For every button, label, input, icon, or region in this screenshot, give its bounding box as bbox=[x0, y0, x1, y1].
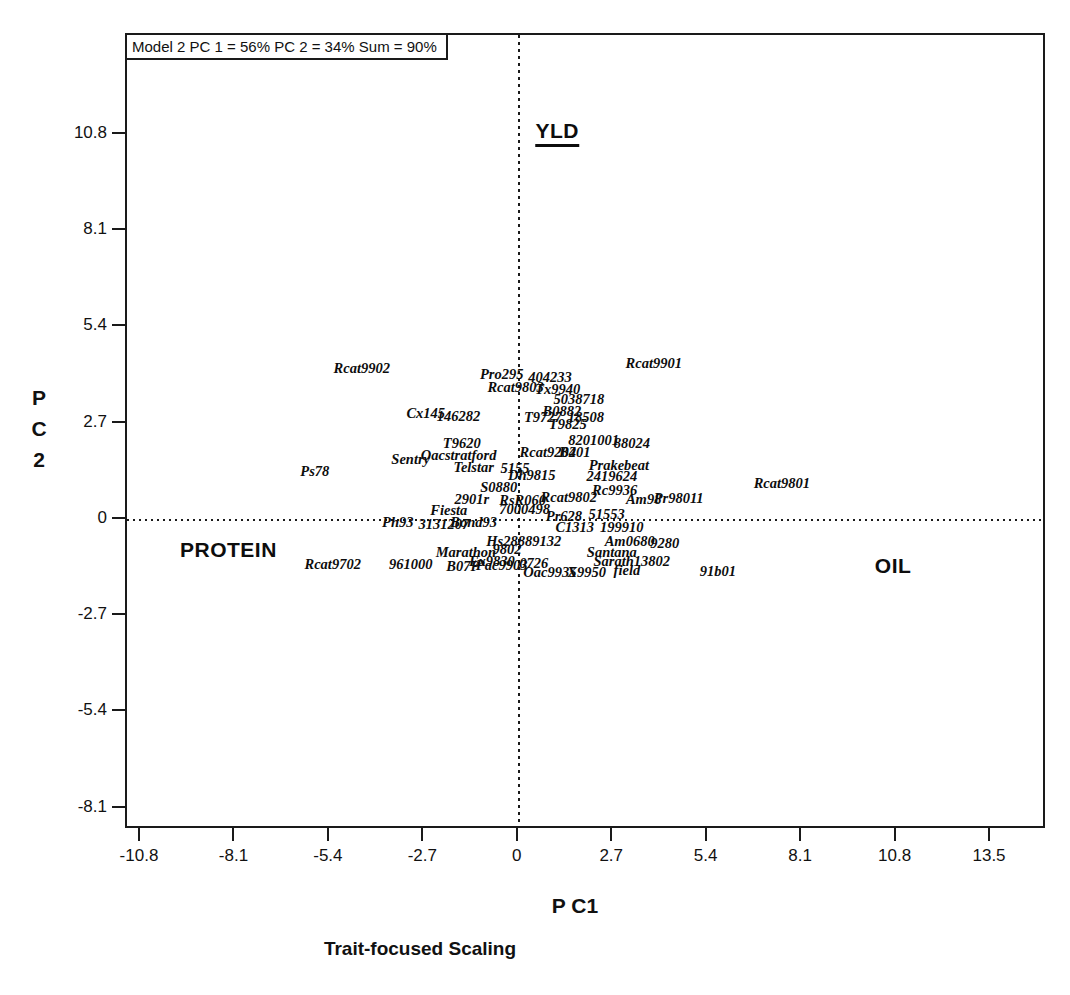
plot-area: Model 2 PC 1 = 56% PC 2 = 34% Sum = 90% … bbox=[125, 33, 1045, 828]
x-tick-mark bbox=[894, 828, 896, 841]
scatter-point-label: B201 bbox=[559, 443, 590, 460]
scatter-point-label: X9950 bbox=[567, 563, 606, 580]
y-tick-mark bbox=[112, 324, 125, 326]
x-tick-label: -5.4 bbox=[313, 846, 342, 866]
y-axis-title: P C 2 bbox=[27, 382, 51, 475]
y-tick-mark bbox=[112, 613, 125, 615]
trait-label-protein: PROTEIN bbox=[180, 538, 277, 562]
x-tick-mark bbox=[988, 828, 990, 841]
scatter-point-label: 7000498 bbox=[499, 500, 550, 517]
y-tick-label: -2.7 bbox=[45, 604, 107, 624]
model-summary-box: Model 2 PC 1 = 56% PC 2 = 34% Sum = 90% bbox=[125, 33, 448, 60]
scatter-point-label: field bbox=[614, 561, 641, 578]
x-tick-label: 2.7 bbox=[599, 846, 623, 866]
y-tick-mark bbox=[112, 228, 125, 230]
y-tick-label: 2.7 bbox=[45, 412, 107, 432]
x-tick-mark bbox=[705, 828, 707, 841]
x-tick-mark bbox=[610, 828, 612, 841]
x-tick-label: 0 bbox=[512, 846, 521, 866]
x-tick-label: 13.5 bbox=[972, 846, 1005, 866]
x-tick-label: 5.4 bbox=[694, 846, 718, 866]
scatter-point-label: Rcat9801 bbox=[754, 474, 810, 491]
y-tick-label: 8.1 bbox=[45, 219, 107, 239]
y-axis-title-line: P bbox=[27, 382, 51, 413]
scatter-point-label: 146282 bbox=[437, 407, 481, 424]
x-tick-mark bbox=[421, 828, 423, 841]
scatter-point-label: Rcat9901 bbox=[626, 354, 682, 371]
y-tick-mark bbox=[112, 517, 125, 519]
y-tick-mark bbox=[112, 132, 125, 134]
scatter-point-label: Telstar bbox=[453, 458, 494, 475]
scatter-point-label: Bond93 bbox=[450, 513, 497, 530]
x-tick-label: 10.8 bbox=[878, 846, 911, 866]
x-axis-title: P C1 bbox=[552, 894, 598, 918]
x-tick-mark bbox=[232, 828, 234, 841]
scatter-point-label: 91b01 bbox=[700, 562, 736, 579]
y-tick-label: 10.8 bbox=[45, 123, 107, 143]
y-tick-label: -5.4 bbox=[45, 700, 107, 720]
y-tick-mark bbox=[112, 709, 125, 711]
y-axis-title-line: 2 bbox=[27, 444, 51, 475]
x-tick-label: -10.8 bbox=[120, 846, 159, 866]
trait-label-yld: YLD bbox=[536, 119, 580, 147]
x-tick-mark bbox=[799, 828, 801, 841]
figure-caption: Trait-focused Scaling bbox=[324, 938, 516, 960]
scatter-point-label: Rcat9702 bbox=[304, 555, 360, 572]
x-tick-label: -8.1 bbox=[219, 846, 248, 866]
y-tick-label: -8.1 bbox=[45, 797, 107, 817]
scatter-point-label: Ps78 bbox=[300, 463, 329, 480]
y-tick-mark bbox=[112, 806, 125, 808]
y-axis-title-line: C bbox=[27, 413, 51, 444]
y-tick-mark bbox=[112, 421, 125, 423]
trait-label-oil: OIL bbox=[875, 554, 912, 578]
x-tick-mark bbox=[516, 828, 518, 841]
y-tick-label: 5.4 bbox=[45, 315, 107, 335]
pca-biplot-figure: Model 2 PC 1 = 56% PC 2 = 34% Sum = 90% … bbox=[0, 0, 1070, 995]
scatter-point-label: Pr98011 bbox=[654, 489, 704, 506]
y-tick-label: 0 bbox=[45, 508, 107, 528]
x-tick-mark bbox=[138, 828, 140, 841]
zero-x-dotted-line bbox=[518, 35, 520, 826]
scatter-point-label: 9280 bbox=[650, 534, 679, 551]
scatter-point-label: 961000 bbox=[389, 555, 433, 572]
x-tick-label: -2.7 bbox=[408, 846, 437, 866]
x-tick-mark bbox=[327, 828, 329, 841]
scatter-point-label: T9825 bbox=[549, 415, 587, 432]
x-tick-label: 8.1 bbox=[788, 846, 812, 866]
scatter-point-label: 88024 bbox=[614, 434, 650, 451]
scatter-point-label: Ph93 bbox=[382, 513, 413, 530]
scatter-point-label: Rcat9902 bbox=[334, 359, 390, 376]
